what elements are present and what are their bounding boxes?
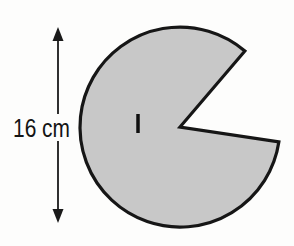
sector-diagram: 16 cm xyxy=(0,0,294,246)
diameter-dimension: 16 cm xyxy=(13,27,70,223)
diagram-canvas: 16 cm xyxy=(0,0,294,246)
arrowhead-up-icon xyxy=(53,27,64,41)
circle-with-sector-removed xyxy=(80,27,279,227)
dimension-label: 16 cm xyxy=(13,114,70,142)
arrowhead-down-icon xyxy=(53,209,64,223)
